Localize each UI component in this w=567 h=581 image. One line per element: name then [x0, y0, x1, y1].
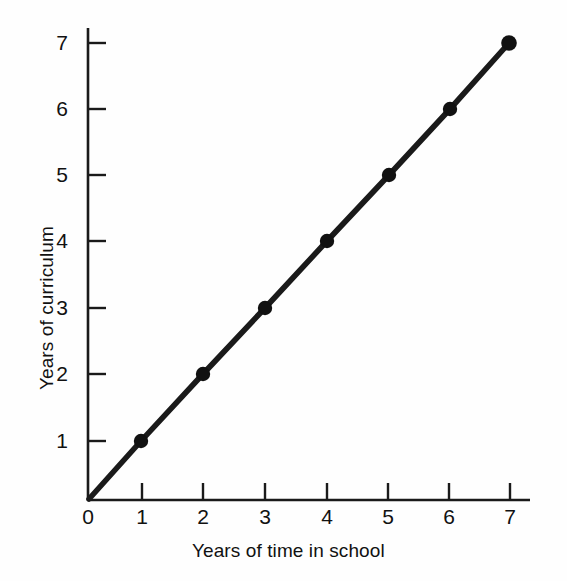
chart-figure: 7 6 5 4 3 2 1 0 1 2 3 4 5 6 7 Years of c… — [0, 0, 567, 581]
x-axis-title: Years of time in school — [192, 540, 385, 562]
data-point-2 — [196, 367, 210, 381]
y-axis-title: Years of curriculum — [36, 226, 58, 390]
x-tick-label-5: 5 — [376, 505, 400, 529]
y-tick-label-6: 6 — [50, 97, 74, 121]
data-point-4 — [320, 234, 334, 248]
x-tick-label-3: 3 — [253, 505, 277, 529]
y-tick-label-5: 5 — [50, 163, 74, 187]
data-point-7 — [501, 35, 517, 51]
line-chart-canvas — [0, 0, 567, 581]
data-point-6 — [443, 102, 457, 116]
data-point-1 — [134, 434, 148, 448]
data-point-5 — [382, 168, 396, 182]
x-tick-label-6: 6 — [437, 505, 461, 529]
y-tick-label-7: 7 — [50, 31, 74, 55]
data-point-3 — [258, 301, 272, 315]
origin-label-0: 0 — [76, 505, 100, 529]
y-tick-label-1: 1 — [50, 429, 74, 453]
x-tick-label-1: 1 — [130, 505, 154, 529]
x-tick-label-4: 4 — [315, 505, 339, 529]
x-tick-label-7: 7 — [498, 505, 522, 529]
x-tick-label-2: 2 — [191, 505, 215, 529]
